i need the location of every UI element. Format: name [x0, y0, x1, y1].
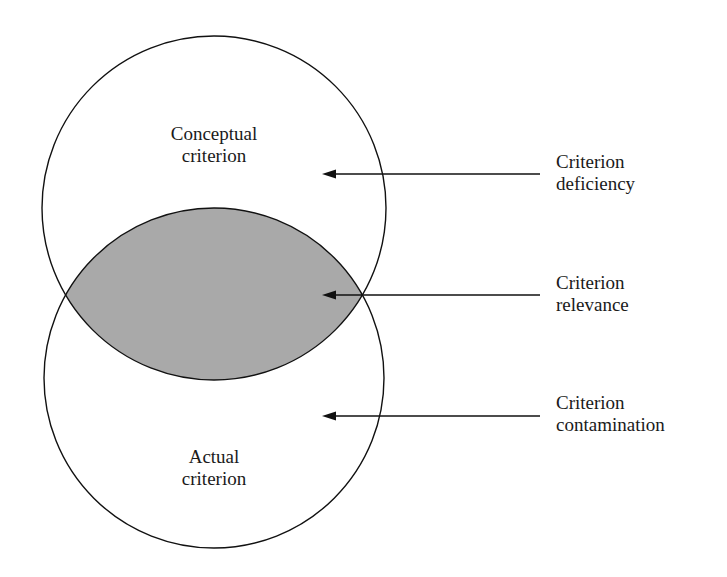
- arrow-deficiency: [322, 170, 540, 179]
- contamination-line1: Criterion: [556, 392, 665, 414]
- conceptual-label-line2: criterion: [134, 145, 294, 167]
- actual-criterion-label: Actual criterion: [134, 446, 294, 490]
- deficiency-line1: Criterion: [556, 151, 635, 173]
- criterion-relevance-label: Criterion relevance: [556, 272, 629, 316]
- actual-label-line2: criterion: [134, 468, 294, 490]
- relevance-line2: relevance: [556, 294, 629, 316]
- conceptual-criterion-label: Conceptual criterion: [134, 123, 294, 167]
- relevance-line1: Criterion: [556, 272, 629, 294]
- criterion-deficiency-label: Criterion deficiency: [556, 151, 635, 195]
- arrow-contamination: [322, 412, 540, 421]
- conceptual-label-line1: Conceptual: [134, 123, 294, 145]
- deficiency-line2: deficiency: [556, 173, 635, 195]
- contamination-line2: contamination: [556, 414, 665, 436]
- criterion-contamination-label: Criterion contamination: [556, 392, 665, 436]
- actual-label-line1: Actual: [134, 446, 294, 468]
- overlap-region: [44, 208, 384, 548]
